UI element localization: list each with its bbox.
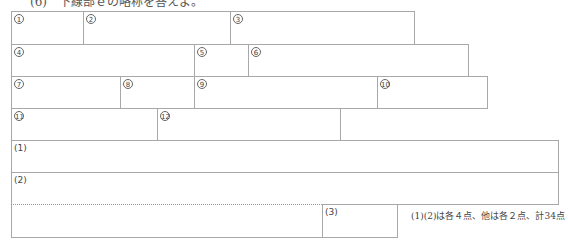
answer-box-part2-2-continued[interactable] bbox=[11, 204, 323, 238]
answer-box-10[interactable]: 10 bbox=[377, 76, 488, 109]
answer-label-part2-3: (3) bbox=[325, 207, 338, 217]
answer-label-7: 7 bbox=[14, 79, 24, 89]
answer-box-7[interactable]: 7 bbox=[11, 76, 121, 109]
answer-box-2[interactable]: 2 bbox=[83, 11, 231, 45]
answer-label-6: 6 bbox=[251, 47, 261, 57]
answer-label-4: 4 bbox=[14, 47, 24, 57]
answer-box-part2-1[interactable]: (1) bbox=[11, 140, 559, 173]
answer-label-2: 2 bbox=[86, 14, 96, 24]
answer-box-9[interactable]: 9 bbox=[194, 76, 378, 109]
answer-box-12[interactable]: 12 bbox=[157, 108, 341, 141]
answer-label-part2-1: (1) bbox=[14, 143, 27, 153]
answer-label-1: 1 bbox=[14, 14, 24, 24]
answer-label-11: 11 bbox=[14, 111, 24, 121]
answer-box-5[interactable]: 5 bbox=[194, 44, 249, 77]
answer-box-8[interactable]: 8 bbox=[120, 76, 195, 109]
answer-label-9: 9 bbox=[197, 79, 207, 89]
answer-box-11[interactable]: 11 bbox=[11, 108, 158, 141]
answer-label-10: 10 bbox=[380, 79, 390, 89]
score-note: (1)(2)は各４点、他は各２点、計34点 bbox=[411, 209, 565, 222]
answer-label-5: 5 bbox=[197, 47, 207, 57]
question-heading: (6) 下線部ｅの略称を答えよ。 bbox=[30, 0, 203, 9]
answer-box-part2-3[interactable]: (3) bbox=[322, 204, 398, 238]
answer-box-4[interactable]: 4 bbox=[11, 44, 195, 77]
answer-label-3: 3 bbox=[233, 14, 243, 24]
answer-box-6[interactable]: 6 bbox=[248, 44, 469, 77]
dotted-divider bbox=[11, 204, 322, 205]
answer-box-1[interactable]: 1 bbox=[11, 11, 84, 45]
answer-box-part2-2[interactable]: (2) bbox=[11, 172, 559, 205]
answer-label-8: 8 bbox=[123, 79, 133, 89]
answer-box-3[interactable]: 3 bbox=[230, 11, 415, 45]
answer-label-12: 12 bbox=[160, 111, 170, 121]
answer-label-part2-2: (2) bbox=[14, 175, 27, 185]
